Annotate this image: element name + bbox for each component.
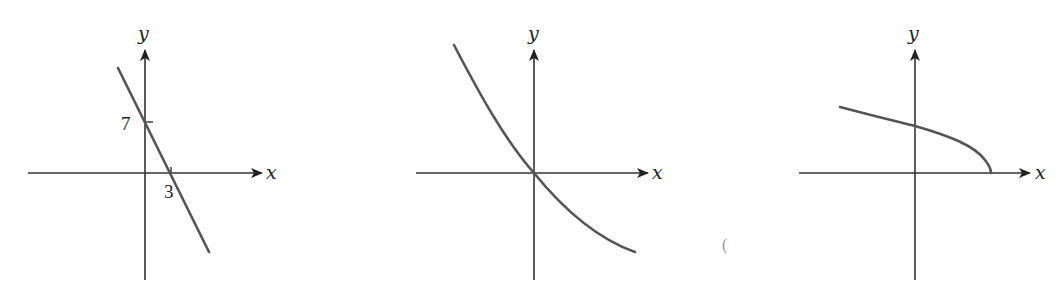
linear-function-line bbox=[118, 68, 209, 252]
x-axis-label: x bbox=[1035, 161, 1046, 183]
y-axis-label: y bbox=[137, 22, 149, 44]
y-axis-label: y bbox=[907, 22, 919, 44]
y-axis-label: y bbox=[527, 22, 539, 44]
y-intercept-label: 7 bbox=[121, 113, 131, 134]
stray-mark: ( bbox=[722, 236, 727, 254]
graph-sqrt-curve: x y bbox=[799, 22, 1046, 280]
x-axis-label: x bbox=[266, 161, 277, 183]
x-axis-label: x bbox=[652, 161, 663, 183]
decreasing-curve bbox=[454, 45, 635, 252]
graph-linear: x y 7 3 bbox=[28, 22, 277, 280]
x-intercept-label: 3 bbox=[164, 181, 174, 202]
graphs-figure: x y 7 3 x y ( x y bbox=[0, 0, 1063, 298]
graph-decreasing-curve: x y bbox=[416, 22, 663, 280]
